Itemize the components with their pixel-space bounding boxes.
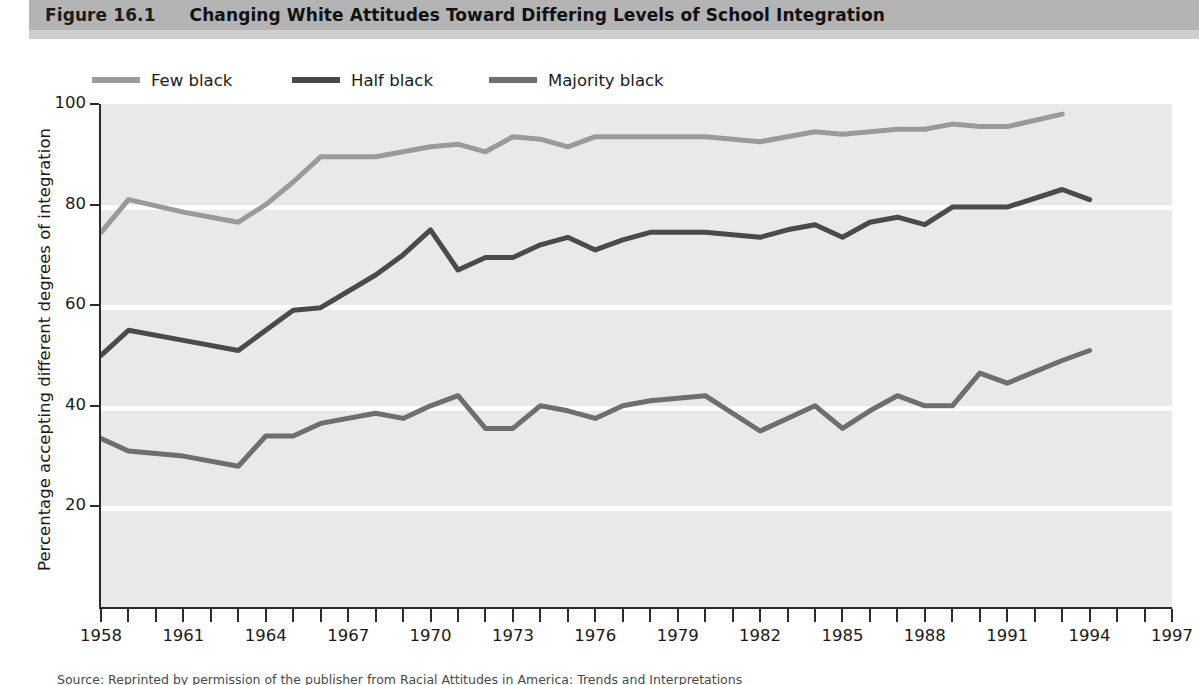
x-tick-mark-1978 [649,609,651,622]
source-note: Source: Reprinted by permission of the p… [57,672,1177,685]
y-tick-mark-60 [90,304,99,306]
x-tick-mark-1981 [732,609,734,622]
x-tick-label-1961: 1961 [162,626,204,645]
y-axis-label: Percentage accepting different degrees o… [35,100,54,600]
y-tick-mark-40 [90,405,99,407]
x-tick-mark-1979 [677,609,679,622]
x-tick-mark-1995 [1116,609,1118,622]
x-tick-mark-1970 [430,609,432,622]
x-tick-mark-1983 [787,609,789,622]
y-tick-mark-20 [90,505,99,507]
x-tick-mark-1988 [924,609,926,622]
x-tick-mark-1996 [1144,609,1146,622]
x-tick-label-1982: 1982 [739,626,781,645]
x-tick-mark-1984 [814,609,816,622]
x-tick-label-1979: 1979 [657,626,699,645]
x-tick-mark-1987 [896,609,898,622]
x-tick-label-1994: 1994 [1069,626,1111,645]
x-tick-mark-1964 [265,609,267,622]
x-tick-mark-1973 [512,609,514,622]
x-tick-mark-1962 [210,609,212,622]
figure-container: Figure 16.1 Changing White Attitudes Tow… [0,0,1199,685]
x-tick-label-1973: 1973 [492,626,534,645]
x-tick-mark-1967 [347,609,349,622]
y-tick-mark-100 [90,103,99,105]
x-tick-mark-1980 [704,609,706,622]
x-tick-label-1988: 1988 [904,626,946,645]
x-tick-label-1997: 1997 [1151,626,1193,645]
x-tick-mark-1993 [1061,609,1063,622]
x-tick-label-1976: 1976 [574,626,616,645]
x-tick-mark-1989 [951,609,953,622]
x-tick-mark-1960 [155,609,157,622]
x-tick-mark-1991 [1006,609,1008,622]
x-tick-mark-1975 [567,609,569,622]
x-tick-mark-1969 [402,609,404,622]
series-plot [101,104,1172,607]
y-axis-line [99,104,101,607]
x-tick-mark-1994 [1089,609,1091,622]
x-tick-mark-1997 [1171,609,1173,622]
x-tick-mark-1976 [594,609,596,622]
x-tick-mark-1972 [484,609,486,622]
x-tick-mark-1968 [375,609,377,622]
plot-wrapper: 20406080100 1958196119641967197019731976… [0,0,1199,685]
x-tick-mark-1990 [979,609,981,622]
x-tick-mark-1974 [539,609,541,622]
x-tick-mark-1959 [127,609,129,622]
x-tick-label-1964: 1964 [245,626,287,645]
x-tick-mark-1958 [100,609,102,622]
line-majority-black [101,351,1090,467]
x-tick-label-1991: 1991 [986,626,1028,645]
line-few-black [101,114,1062,232]
x-tick-mark-1971 [457,609,459,622]
x-tick-label-1958: 1958 [80,626,122,645]
x-axis-line [99,607,1172,609]
x-tick-mark-1985 [841,609,843,622]
x-tick-mark-1977 [622,609,624,622]
y-tick-mark-80 [90,204,99,206]
x-tick-mark-1966 [320,609,322,622]
x-tick-mark-1965 [292,609,294,622]
x-tick-mark-1963 [237,609,239,622]
x-tick-mark-1986 [869,609,871,622]
x-tick-label-1970: 1970 [410,626,452,645]
x-tick-label-1967: 1967 [327,626,369,645]
x-tick-mark-1982 [759,609,761,622]
x-tick-mark-1992 [1034,609,1036,622]
x-tick-label-1985: 1985 [821,626,863,645]
x-tick-mark-1961 [182,609,184,622]
